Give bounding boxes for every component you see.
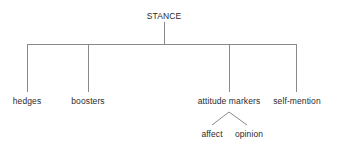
node-label-hedges: hedges <box>13 96 42 106</box>
stance-tree-diagram: STANCE hedges boosters attitude markers … <box>0 0 347 146</box>
tree-edges <box>0 0 347 146</box>
node-label-affect: affect <box>201 129 222 139</box>
sub-branch-lines <box>212 112 247 125</box>
node-label-self-mention: self-mention <box>273 96 321 106</box>
node-label-root: STANCE <box>147 11 181 21</box>
node-label-boosters: boosters <box>71 96 104 106</box>
node-label-opinion: opinion <box>235 129 263 139</box>
node-label-attitude-markers: attitude markers <box>198 96 261 106</box>
